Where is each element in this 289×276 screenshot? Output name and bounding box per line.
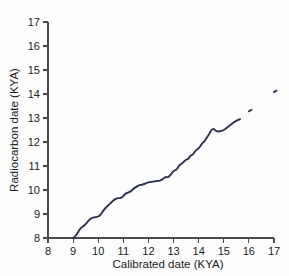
calibration-curve xyxy=(73,119,240,238)
y-tick-label: 16 xyxy=(28,40,40,52)
y-axis-tick-labels: 891011121314151617 xyxy=(28,16,40,244)
x-axis-title: Calibrated date (KYA) xyxy=(112,258,223,270)
x-axis-ticks xyxy=(48,238,274,243)
y-axis-title: Radiocarbon date (KYA) xyxy=(8,68,20,192)
radiocarbon-calibration-chart: 891011121314151617 891011121314151617 Ca… xyxy=(0,0,289,276)
axes-group: 891011121314151617 891011121314151617 xyxy=(28,16,280,257)
y-tick-label: 17 xyxy=(28,16,40,28)
x-tick-label: 12 xyxy=(142,245,154,257)
x-tick-label: 10 xyxy=(92,245,104,257)
calibration-curve-fragment xyxy=(249,110,252,111)
y-tick-label: 11 xyxy=(29,160,40,172)
y-tick-label: 14 xyxy=(28,88,40,100)
data-series-group xyxy=(73,91,276,238)
y-tick-label: 8 xyxy=(34,232,40,244)
x-tick-label: 17 xyxy=(268,245,280,257)
x-axis-tick-labels: 891011121314151617 xyxy=(45,245,280,257)
y-tick-label: 10 xyxy=(28,184,40,196)
x-tick-label: 8 xyxy=(45,245,51,257)
y-tick-label: 9 xyxy=(34,208,40,220)
x-tick-label: 14 xyxy=(193,245,205,257)
chart-figure: 891011121314151617 891011121314151617 Ca… xyxy=(0,0,289,276)
y-tick-label: 15 xyxy=(28,64,40,76)
x-tick-label: 15 xyxy=(218,245,230,257)
x-tick-label: 9 xyxy=(70,245,76,257)
y-axis-ticks xyxy=(43,22,48,238)
y-tick-label: 12 xyxy=(28,136,40,148)
y-tick-label: 13 xyxy=(28,112,40,124)
x-tick-label: 13 xyxy=(167,245,179,257)
calibration-curve-fragment xyxy=(274,91,277,92)
x-tick-label: 11 xyxy=(118,245,129,257)
x-tick-label: 16 xyxy=(243,245,255,257)
